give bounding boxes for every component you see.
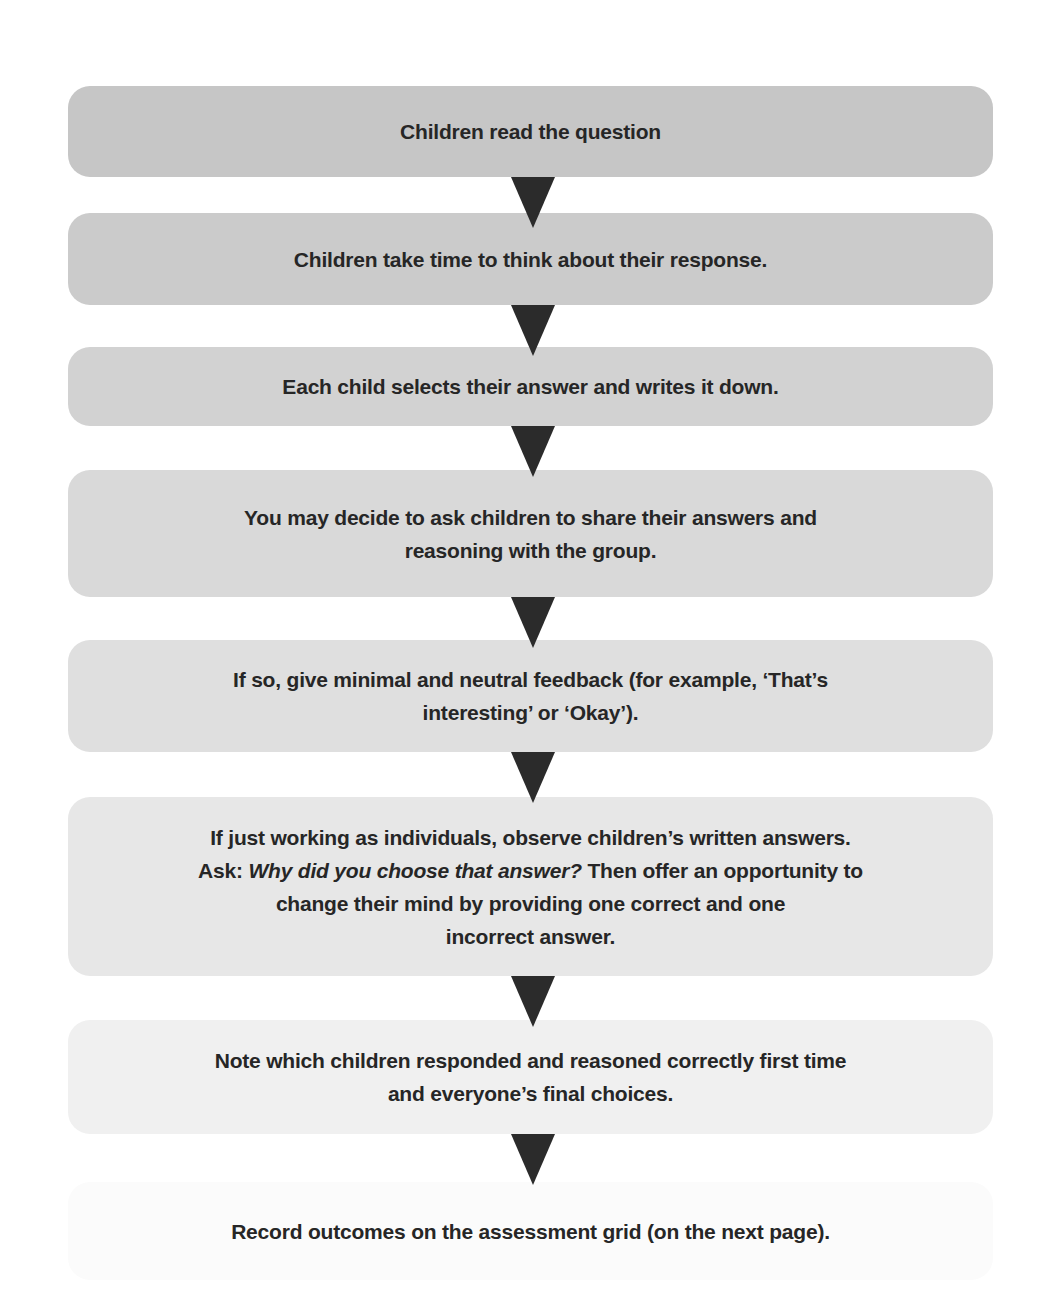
step-4-text: You may decide to ask children to share … (244, 501, 817, 567)
step-2-text: Children take time to think about their … (294, 243, 767, 276)
down-arrow-icon (511, 177, 555, 228)
step-7-text: Note which children responded and reason… (215, 1044, 847, 1110)
down-arrow-icon (511, 976, 555, 1027)
step-7-note-responses: Note which children responded and reason… (68, 1020, 993, 1134)
down-arrow-icon (511, 305, 555, 356)
step-1-text: Children read the question (400, 115, 661, 148)
down-arrow-icon (511, 426, 555, 477)
step-4-share-answers: You may decide to ask children to share … (68, 470, 993, 597)
down-arrow-icon (511, 597, 555, 648)
down-arrow-icon (511, 1134, 555, 1185)
step-6-text: If just working as individuals, observe … (198, 821, 863, 953)
step-1-read-question: Children read the question (68, 86, 993, 177)
ask-question-italic: Why did you choose that answer? (248, 859, 581, 882)
step-8-text: Record outcomes on the assessment grid (… (231, 1215, 830, 1248)
step-5-text: If so, give minimal and neutral feedback… (233, 663, 828, 729)
step-6-line-3: change their mind by providing one corre… (198, 887, 863, 920)
ask-suffix: Then offer an opportunity to (582, 859, 863, 882)
step-3-text: Each child selects their answer and writ… (282, 370, 778, 403)
step-8-record-outcomes: Record outcomes on the assessment grid (… (68, 1182, 993, 1280)
step-5-neutral-feedback: If so, give minimal and neutral feedback… (68, 640, 993, 752)
step-6-line-2: Ask: Why did you choose that answer? The… (198, 854, 863, 887)
down-arrow-icon (511, 752, 555, 803)
step-6-line-1: If just working as individuals, observe … (198, 821, 863, 854)
step-6-line-4: incorrect answer. (198, 920, 863, 953)
step-6-observe-individuals: If just working as individuals, observe … (68, 797, 993, 976)
flowchart: Children read the question Children take… (0, 0, 1046, 1314)
step-3-select-answer: Each child selects their answer and writ… (68, 347, 993, 426)
ask-label: Ask: (198, 859, 248, 882)
